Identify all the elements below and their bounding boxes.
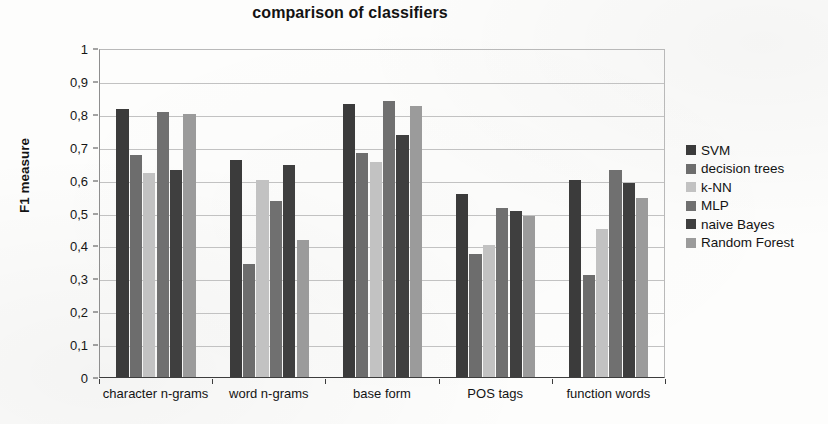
bar	[170, 170, 182, 377]
x-axis-tick-mark	[665, 379, 666, 384]
bar	[583, 275, 595, 377]
legend-label: naive Bayes	[701, 217, 775, 232]
chart-legend: SVMdecision treesk-NNMLPnaive BayesRando…	[686, 141, 826, 252]
x-axis-tick-mark	[99, 379, 100, 384]
y-axis-tick-label: 0,8	[70, 107, 88, 122]
y-axis-tick-mark	[93, 246, 98, 247]
x-axis-tick-mark	[439, 379, 440, 384]
bar	[609, 170, 621, 377]
y-axis-tick-mark	[93, 49, 98, 50]
bar	[343, 104, 355, 377]
bar	[410, 106, 422, 377]
bar	[256, 180, 268, 377]
bar	[483, 245, 495, 377]
x-axis-category-label: base form	[353, 386, 411, 401]
bar	[396, 135, 408, 377]
bar	[623, 183, 635, 377]
x-axis-tick-mark	[325, 379, 326, 384]
bar	[143, 173, 155, 377]
bar	[270, 201, 282, 377]
y-axis-tick-label: 0,5	[70, 206, 88, 221]
x-axis-tick-mark	[552, 379, 553, 384]
legend-item[interactable]: k-NN	[686, 178, 826, 197]
legend-label: k-NN	[701, 180, 732, 195]
bar	[456, 194, 468, 377]
y-axis-title: F1 measure	[17, 106, 32, 246]
bars-layer	[100, 50, 664, 377]
bar	[496, 208, 508, 377]
x-axis-tick-mark	[212, 379, 213, 384]
legend-swatch-icon	[686, 145, 696, 155]
legend-item[interactable]: decision trees	[686, 160, 826, 179]
chart-page: comparison of classifiers F1 measure 00,…	[0, 0, 828, 424]
bar	[370, 162, 382, 377]
y-axis-tick-mark	[93, 312, 98, 313]
legend-label: SVM	[701, 143, 730, 158]
y-axis-tick-mark	[93, 279, 98, 280]
y-axis-tick-mark	[93, 213, 98, 214]
bar	[596, 229, 608, 377]
y-axis-tick-label: 0	[81, 371, 88, 386]
bar	[283, 165, 295, 377]
legend-label: MLP	[701, 198, 729, 213]
bar	[356, 153, 368, 377]
bar	[469, 254, 481, 377]
bar	[636, 198, 648, 377]
x-axis-category-label: word n-grams	[229, 386, 308, 401]
y-axis-tick-label: 1	[81, 42, 88, 57]
y-axis-tick-label: 0,7	[70, 140, 88, 155]
legend-swatch-icon	[686, 164, 696, 174]
y-axis-tick-mark	[93, 114, 98, 115]
bar	[130, 155, 142, 377]
x-axis-category-label: function words	[566, 386, 650, 401]
y-axis-tick-mark	[93, 345, 98, 346]
bar	[243, 264, 255, 378]
legend-item[interactable]: Random Forest	[686, 234, 826, 253]
y-axis-tick-label: 0,4	[70, 239, 88, 254]
y-axis-tick-label: 0,2	[70, 305, 88, 320]
legend-swatch-icon	[686, 201, 696, 211]
bar	[523, 216, 535, 377]
legend-label: Random Forest	[701, 235, 794, 250]
x-axis-category-label: POS tags	[467, 386, 523, 401]
y-axis-tick-mark	[93, 378, 98, 379]
bar	[183, 114, 195, 377]
chart-title: comparison of classifiers	[0, 4, 700, 22]
legend-swatch-icon	[686, 238, 696, 248]
x-axis-category-label: character n-grams	[103, 386, 208, 401]
y-axis-tick-label: 0,3	[70, 272, 88, 287]
bar	[116, 109, 128, 377]
y-axis-tick-label: 0,1	[70, 338, 88, 353]
y-axis-tick-mark	[93, 180, 98, 181]
bar	[569, 180, 581, 377]
y-axis-tick-mark	[93, 147, 98, 148]
legend-label: decision trees	[701, 161, 784, 176]
bar	[230, 160, 242, 377]
legend-item[interactable]: SVM	[686, 141, 826, 160]
bar	[510, 211, 522, 377]
legend-item[interactable]: naive Bayes	[686, 215, 826, 234]
legend-swatch-icon	[686, 219, 696, 229]
bar	[383, 101, 395, 377]
legend-swatch-icon	[686, 182, 696, 192]
bar	[157, 112, 169, 377]
legend-item[interactable]: MLP	[686, 197, 826, 216]
y-axis-tick-label: 0,6	[70, 173, 88, 188]
y-axis-tick-labels: 00,10,20,30,40,50,60,70,80,91	[40, 49, 94, 378]
y-axis-tick-label: 0,9	[70, 74, 88, 89]
y-axis-tick-mark	[93, 81, 98, 82]
bar	[297, 240, 309, 377]
plot-area	[99, 49, 665, 378]
